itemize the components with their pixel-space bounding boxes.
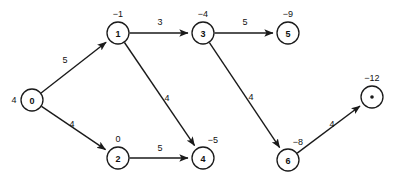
graph-edge-3-to-6 — [209, 43, 279, 148]
graph-node-3-text: 3 — [200, 29, 205, 39]
graph-node-4-value-label: −5 — [208, 135, 218, 145]
nodes-layer: 0123456 — [21, 22, 383, 171]
edge-weight-1-3: 3 — [157, 17, 162, 27]
edge-weight-2-4: 5 — [157, 143, 162, 153]
edge-weight-3-5: 5 — [242, 17, 247, 27]
graph-node-1-text: 1 — [115, 29, 120, 39]
graph-node-3-value-label: −4 — [198, 9, 208, 19]
graph-edge-1-to-4 — [124, 43, 194, 146]
graph-node-0-value-label: 4 — [11, 95, 16, 105]
edge-weight-3-6: 4 — [248, 92, 253, 102]
edge-weight-6-7: 4 — [329, 119, 334, 129]
graph-node-1-value-label: −1 — [113, 9, 123, 19]
graph-node-2-value-label: 0 — [115, 134, 120, 144]
graph-node-6-text: 6 — [285, 156, 290, 166]
graph-node-7-dot-icon — [370, 95, 374, 99]
edge-weight-1-4: 4 — [164, 93, 169, 103]
graph-node-5-text: 5 — [285, 29, 290, 39]
graph-diagram-canvas: 0123456 54345454 4−10−4−5−9−8−12 — [0, 0, 396, 185]
graph-svg: 0123456 54345454 4−10−4−5−9−8−12 — [0, 0, 396, 185]
graph-node-6-value-label: −8 — [293, 137, 303, 147]
graph-edge-6-to-7 — [297, 106, 360, 153]
graph-node-7-value-label: −12 — [364, 73, 379, 83]
graph-node-5-value-label: −9 — [283, 9, 293, 19]
edge-weight-0-2: 4 — [69, 119, 74, 129]
graph-edge-0-to-1 — [41, 42, 106, 93]
graph-node-4-text: 4 — [200, 154, 205, 164]
edges-layer — [41, 33, 360, 158]
graph-node-2-text: 2 — [115, 154, 120, 164]
edge-weight-0-1: 5 — [62, 55, 67, 65]
graph-node-0-text: 0 — [29, 96, 34, 106]
